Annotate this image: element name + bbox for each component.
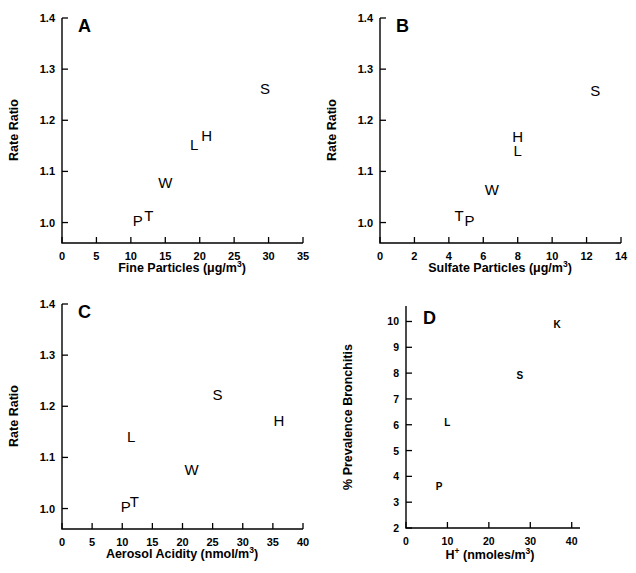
y-tick-label: 7 [393,393,399,405]
y-tick-label: 1.1 [40,165,55,177]
panel-a-yaxis-title: Rate Ratio [7,99,21,161]
y-tick-label: 1.0 [358,217,373,229]
data-point-label: P [436,481,443,492]
y-tick-label: 1.0 [40,217,55,229]
panel-c-xticks: 0510152025303540 [59,523,309,548]
y-tick-label: 1.3 [358,63,373,75]
panel-d-yaxis-title: % Prevalence Bronchitis [341,344,355,490]
panel-c-yaxis-title: Rate Ratio [7,385,21,447]
y-tick-label: 1.2 [358,114,373,126]
y-tick-label: 1.4 [40,298,56,310]
data-point-label: S [212,386,222,403]
panel-c-plot: 1.01.11.21.31.4 0510152025303540 PTWLSH … [0,286,318,573]
x-tick-label: 10 [442,535,454,547]
y-tick-label: 1.0 [40,503,55,515]
panel-b-yaxis-title: Rate Ratio [325,99,339,161]
y-tick-label: 1.2 [40,400,55,412]
data-point-label: T [144,207,153,224]
panel-c-axes [62,304,303,529]
x-tick-label: 5 [89,536,95,548]
panel-c-xaxis-title: Aerosol Acidity (nmol/m3) [106,545,258,561]
data-point-label: T [130,493,139,510]
y-tick-label: 1.3 [40,349,55,361]
panel-d-axes [406,306,580,528]
y-tick-label: 6 [393,419,399,431]
x-tick-label: 0 [59,536,65,548]
data-point-label: L [127,428,135,445]
figure-four-panel-scatter: 1.01.11.21.31.4 05101520253035 PTWLHS A … [0,0,636,573]
panel-d-yticks: 2345678910 [387,315,412,534]
y-tick-label: 8 [393,367,399,379]
data-point-label: W [184,461,199,478]
panel-b-axes [380,18,621,243]
panel-b-plot: 1.01.11.21.31.4 02468101214 TPWLHS B Sul… [318,0,636,286]
data-point-label: H [273,412,284,429]
y-tick-label: 1.1 [40,451,55,463]
panel-d: 2345678910 010203040 PLSK D H+ (nmoles/m… [318,286,636,573]
panel-a-xaxis-title: Fine Particles (μg/m3) [118,259,246,275]
data-point-label: W [485,181,500,198]
y-tick-label: 10 [387,315,399,327]
data-point-label: W [158,174,173,191]
y-tick-label: 9 [393,341,399,353]
y-tick-label: 3 [393,496,399,508]
y-tick-label: 1.2 [40,114,55,126]
data-point-label: H [201,127,212,144]
data-point-label: H [512,128,523,145]
x-tick-label: 20 [483,535,495,547]
y-tick-label: 1.1 [358,165,373,177]
data-point-label: P [133,212,143,229]
panel-letter-a: A [78,16,91,36]
data-point-label: L [444,417,450,428]
panel-letter-c: C [78,302,91,322]
axis-lines [406,306,580,528]
axis-lines [62,18,303,243]
data-point-label: S [260,80,270,97]
data-point-label: K [554,319,562,330]
panel-b-xticks: 02468101214 [377,237,628,262]
x-tick-label: 35 [267,536,279,548]
y-tick-label: 4 [393,470,399,482]
panel-a-xticks: 05101520253035 [59,237,309,262]
x-tick-label: 35 [297,250,309,262]
panel-a: 1.01.11.21.31.4 05101520253035 PTWLHS A … [0,0,318,286]
panel-b-xaxis-title: Sulfate Particles (μg/m3) [428,259,572,275]
panel-d-xaxis-title: H+ (nmoles/m3) [446,546,535,562]
data-point-label: P [465,212,475,229]
y-tick-label: 1.3 [40,63,55,75]
panel-a-plot: 1.01.11.21.31.4 05101520253035 PTWLHS A … [0,0,318,286]
x-tick-label: 5 [93,250,99,262]
x-tick-label: 12 [580,250,592,262]
data-point-label: T [455,207,464,224]
panel-d-plot: 2345678910 010203040 PLSK D H+ (nmoles/m… [318,286,636,573]
y-tick-label: 5 [393,445,399,457]
panel-b: 1.01.11.21.31.4 02468101214 TPWLHS B Sul… [318,0,636,286]
panel-b-yticks: 1.01.11.21.31.4 [358,12,386,229]
panel-d-datapoints: PLSK [436,319,562,493]
y-tick-label: 2 [393,522,399,534]
data-point-label: L [190,136,198,153]
x-tick-label: 40 [566,535,578,547]
y-tick-label: 1.4 [40,12,56,24]
panel-c: 1.01.11.21.31.4 0510152025303540 PTWLSH … [0,286,318,573]
axis-lines [380,18,621,243]
panel-a-datapoints: PTWLHS [133,80,270,229]
x-tick-label: 40 [297,536,309,548]
panel-a-axes [62,18,303,243]
x-tick-label: 30 [262,250,274,262]
data-point-label: S [517,370,524,381]
panel-d-xticks: 010203040 [403,522,578,547]
panel-b-datapoints: TPWLHS [455,82,601,229]
x-tick-label: 0 [59,250,65,262]
x-tick-label: 0 [377,250,383,262]
axis-lines [62,304,303,529]
panel-a-yticks: 1.01.11.21.31.4 [40,12,68,229]
x-tick-label: 14 [615,250,628,262]
panel-c-datapoints: PTWLSH [121,386,284,515]
data-point-label: S [590,82,600,99]
y-tick-label: 1.4 [358,12,374,24]
x-tick-label: 2 [411,250,417,262]
panel-c-yticks: 1.01.11.21.31.4 [40,298,68,515]
panel-letter-b: B [396,16,409,36]
panel-letter-d: D [423,308,436,328]
